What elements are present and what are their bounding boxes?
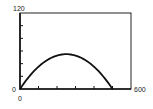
y-min-label: 0 (12, 86, 16, 93)
data-curve (20, 54, 113, 89)
x-max-label: 600 (134, 86, 146, 93)
x-min-label: 0 (18, 95, 22, 102)
y-max-label: 120 (13, 5, 25, 12)
plot-frame (20, 13, 131, 89)
chart: 120 0 0 600 (0, 0, 153, 109)
